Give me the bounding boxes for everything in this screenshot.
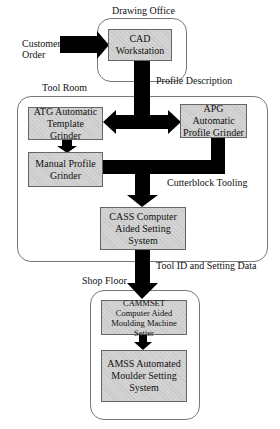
node-amss-line3: System	[107, 382, 181, 394]
node-apg-line1: APG Automatic	[183, 103, 244, 127]
arrow-profile-description-shaft	[134, 61, 150, 121]
edge-label-cutterblock-tooling: Cutterblock Tooling	[167, 177, 248, 188]
edge-label-customer-order: Customer Order	[22, 38, 61, 60]
edge-label-profile-description: Profile Description	[156, 75, 232, 86]
arrow-cutterblock-bar	[103, 160, 225, 174]
arrow-tool-id-shaft	[135, 250, 150, 284]
node-atg-line2: Template Grinder	[31, 118, 100, 142]
node-cammset-line3: Moulding Machine Setter	[104, 318, 184, 338]
node-cad-line1: CAD	[116, 33, 165, 45]
node-manual-profile-grinder: Manual Profile Grinder	[28, 152, 103, 187]
node-atg: ATG Automatic Template Grinder	[28, 107, 103, 140]
node-apg: APG Automatic Profile Grinder	[180, 104, 247, 138]
node-cass-line2: Aided Setting System	[103, 223, 183, 247]
node-cad-line2: Workstation	[116, 45, 165, 57]
edge-label-tool-id-setting-data: Tool ID and Setting Data	[156, 260, 256, 271]
edge-label-customer-order-line1: Customer	[22, 38, 61, 49]
node-cammset: CAMMSET Computer Aided Moulding Machine …	[101, 300, 187, 335]
edge-label-customer-order-line2: Order	[22, 49, 61, 60]
node-amss-line1: AMSS Automated	[107, 358, 181, 370]
arrow-to-cass-shaft	[135, 174, 150, 196]
node-manual-line1: Manual Profile	[35, 158, 95, 170]
node-manual-line2: Grinder	[35, 170, 95, 182]
node-cammset-line2: Computer Aided	[104, 308, 184, 318]
node-amss: AMSS Automated Moulder Setting System	[101, 350, 187, 402]
arrow-to-cass-head	[127, 195, 158, 207]
node-cass-line1: CASS Computer	[103, 211, 183, 223]
node-cass: CASS Computer Aided Setting System	[100, 207, 186, 250]
node-cad-workstation: CAD Workstation	[108, 29, 172, 61]
node-amss-line2: Moulder Setting	[107, 370, 181, 382]
node-cammset-line1: CAMMSET	[104, 298, 184, 308]
node-atg-line1: ATG Automatic	[31, 106, 100, 118]
node-apg-line2: Profile Grinder	[183, 127, 244, 139]
arrow-customer-order	[60, 31, 109, 59]
